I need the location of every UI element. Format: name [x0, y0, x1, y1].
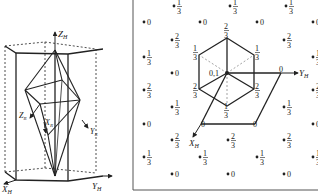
grid-point-label: 0: [147, 120, 151, 129]
lattice-point: [283, 173, 286, 176]
hidden-edges: [5, 42, 96, 173]
cell-vertex-label: 0: [279, 65, 283, 74]
grid-point-label: 0: [287, 170, 291, 179]
hexagon-vertex-label: 3: [224, 111, 228, 120]
grid-point-label: 0: [203, 18, 207, 27]
grid-point-label: 3: [147, 158, 151, 167]
grid-point-label: 0: [316, 120, 318, 129]
grid-point-label: 3: [233, 7, 237, 16]
lattice-point: [143, 89, 146, 92]
y-h-label: YH: [92, 181, 102, 192]
hexagon-vertex-label: 2: [193, 82, 197, 91]
lattice-point: [199, 156, 202, 159]
lattice-point: [173, 5, 176, 8]
x-h-axis-label: XH: [188, 138, 200, 149]
grid-point-label: 1: [287, 99, 291, 108]
lattice-point: [171, 139, 174, 142]
grid-point-label: 1: [289, 0, 293, 7]
hexagon-vertex-label: 3: [193, 91, 197, 100]
lattice-point: [312, 123, 315, 126]
grid-point-label: 0: [260, 18, 264, 27]
hexagon-vertex-label: 3: [255, 91, 259, 100]
hexagon-vertex-label: 3: [224, 31, 228, 40]
grid-point-label: 1: [147, 49, 151, 58]
lattice-point: [171, 72, 174, 75]
lattice-point: [312, 156, 315, 159]
grid-point-label: 2: [287, 132, 291, 141]
x-h-label: XH: [1, 184, 13, 194]
origin-point: [225, 71, 229, 75]
z-r-label: ZR: [19, 111, 27, 121]
cell-vertex-label: 0: [253, 120, 257, 129]
lattice-point: [283, 106, 286, 109]
grid-point-label: 3: [175, 141, 179, 150]
hexagon-vertex-label: 1: [224, 102, 228, 111]
lattice-point: [143, 123, 146, 126]
grid-point-label: 1: [233, 0, 237, 7]
grid-point-label: 2: [287, 32, 291, 41]
grid-point-label: 0: [231, 170, 235, 179]
hexagon-vertex-label: 2: [255, 82, 259, 91]
grid-point-label: 3: [289, 7, 293, 16]
grid-point-label: 3: [260, 158, 264, 167]
grid-point-label: 3: [175, 108, 179, 117]
lattice-point: [143, 56, 146, 59]
grid-point-label: 1: [147, 149, 151, 158]
y-r-label: YR: [90, 127, 98, 137]
cell-vertex-label: 0: [201, 120, 205, 129]
grid-point-label: 0: [316, 18, 318, 27]
grid-point-label: 3: [316, 158, 318, 167]
grid-point-label: 0: [147, 18, 151, 27]
y-h-axis-label: YH: [299, 68, 309, 79]
grid-point-label: 3: [147, 91, 151, 100]
grid-point-label: 3: [287, 41, 291, 50]
origin-label: 0,1: [209, 69, 219, 78]
grid-point-label: 0: [175, 69, 179, 78]
grid-point-label: 3: [316, 91, 318, 100]
lattice-point: [256, 21, 259, 24]
lattice-point: [312, 56, 315, 59]
grid-point-label: 2: [147, 82, 151, 91]
grid-point-label: 2: [175, 132, 179, 141]
hexagon-vertex-label: 3: [193, 53, 197, 62]
grid-point-label: 3: [231, 141, 235, 150]
lattice-point: [199, 21, 202, 24]
z-h-label: ZH: [58, 29, 68, 40]
lattice-point: [171, 39, 174, 42]
grid-point-label: 3: [175, 41, 179, 50]
grid-point-label: 1: [316, 49, 318, 58]
lattice-point: [143, 156, 146, 159]
grid-point-label: 1: [316, 149, 318, 158]
lattice-point: [171, 106, 174, 109]
grid-point-label: 3: [316, 58, 318, 67]
x-r-label: XR: [44, 118, 53, 128]
lattice-point: [227, 139, 230, 142]
hexagon-vertex-label: 1: [193, 44, 197, 53]
grid-point-label: 2: [231, 132, 235, 141]
grid-point-label: 2: [175, 32, 179, 41]
grid-point-label: 3: [177, 7, 181, 16]
lattice-point: [143, 21, 146, 24]
grid-point-label: 3: [203, 158, 207, 167]
lattice-point: [283, 39, 286, 42]
grid-point-label: 1: [177, 0, 181, 7]
hexagon-vertex-label: 2: [224, 22, 228, 31]
figure-canvas: ZH XH YH ZR XR YR: [0, 0, 318, 194]
hexagonal-prism-figure: [4, 32, 112, 184]
lattice-point: [227, 173, 230, 176]
unit-cell-projection: [193, 73, 298, 137]
grid-point-labels: 1313130000232313130232313130023232313131…: [143, 0, 318, 179]
grid-point-label: 3: [287, 141, 291, 150]
lattice-point: [283, 139, 286, 142]
lattice-point: [285, 5, 288, 8]
lattice-point: [171, 173, 174, 176]
grid-point-label: 1: [203, 149, 207, 158]
lattice-point: [256, 156, 259, 159]
lattice-point: [229, 5, 232, 8]
hexagon-vertex-label: 1: [255, 44, 259, 53]
hexagon-vertex-label: 3: [255, 53, 259, 62]
grid-point-label: 3: [147, 58, 151, 67]
grid-point-label: 1: [175, 99, 179, 108]
lattice-point: [312, 21, 315, 24]
grid-point-label: 2: [316, 82, 318, 91]
